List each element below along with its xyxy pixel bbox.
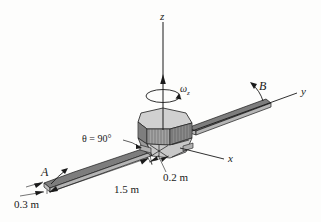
width-arrowhead-bottom xyxy=(35,191,44,196)
body-dimension-label: 0.2 m xyxy=(163,172,188,183)
z-axis-arrowhead xyxy=(160,74,166,84)
omega-symbol: ω xyxy=(180,83,187,94)
x-axis-line xyxy=(180,148,224,159)
satellite-diagram: z y x ωz A B θ = 90° 1.5 m 0.3 m 0.2 m xyxy=(0,0,321,222)
x-axis xyxy=(180,148,224,159)
rotation-indicator xyxy=(146,90,182,103)
y-axis-line xyxy=(192,93,297,131)
x-axis-label: x xyxy=(228,153,233,164)
point-a-label: A xyxy=(41,166,48,178)
length-dimension-label: 1.5 m xyxy=(114,184,139,195)
y-axis xyxy=(192,93,297,131)
width-dimension xyxy=(20,182,44,196)
panel-b-top-face xyxy=(187,99,271,131)
satellite-body xyxy=(138,108,193,158)
point-b-label: B xyxy=(259,80,266,92)
z-axis-label: z xyxy=(160,11,164,22)
omega-z-label: ωz xyxy=(180,84,190,97)
body-dim-arrow-left xyxy=(150,156,158,162)
theta-angle-label: θ = 90° xyxy=(82,134,111,144)
diagram-canvas xyxy=(0,0,321,222)
panel-b-front-edge xyxy=(196,103,271,135)
solar-panel-b xyxy=(187,99,271,135)
panel-a-top-face xyxy=(44,147,151,188)
width-dimension-label: 0.3 m xyxy=(14,199,39,210)
omega-subscript: z xyxy=(187,89,190,97)
y-axis-label: y xyxy=(301,86,306,97)
width-arrowhead-top xyxy=(34,183,43,189)
body-side-front xyxy=(147,129,170,145)
